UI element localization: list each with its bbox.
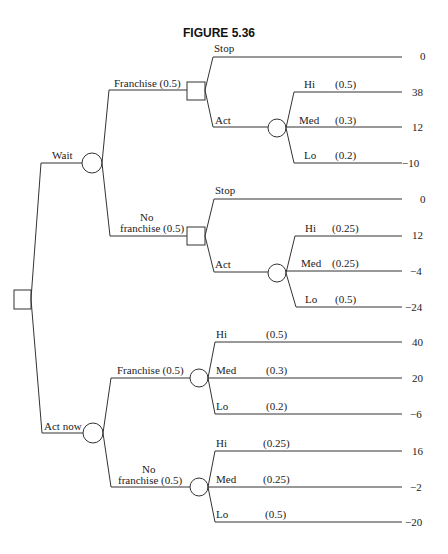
label-wait-franchise: Franchise (0.5)	[114, 77, 181, 90]
prob: (0.25)	[263, 437, 290, 450]
branch-wait	[31, 163, 41, 299]
payoff: −6	[410, 408, 422, 420]
payoff: 40	[412, 336, 424, 348]
payoff: 38	[412, 86, 424, 98]
payoff: −24	[405, 301, 423, 313]
payoff: −10	[402, 157, 420, 169]
wait-franchise-decision-node	[187, 82, 205, 100]
label-stop: Stop	[214, 42, 235, 54]
prob: (0.5)	[266, 328, 287, 341]
wait-franchise-chance-node	[268, 119, 286, 137]
prob: (0.2)	[266, 400, 287, 413]
label-med: Med	[216, 364, 237, 376]
label-med: Med	[216, 473, 237, 485]
prob: (0.2)	[335, 149, 356, 162]
payoff: 12	[412, 121, 423, 133]
payoff: 16	[412, 445, 424, 457]
wait-nofranchise-decision-node	[187, 227, 205, 245]
label-actnow-franchise: Franchise (0.5)	[117, 364, 184, 377]
prob: (0.25)	[263, 473, 290, 486]
label-act: Act	[215, 114, 231, 126]
label-stop: Stop	[215, 184, 236, 196]
actnow-chance-node	[83, 423, 103, 443]
label-hi: Hi	[305, 222, 316, 234]
prob: (0.5)	[335, 293, 356, 306]
payoff: −20	[405, 516, 423, 528]
prob: (0.25)	[332, 257, 359, 270]
prob: (0.5)	[335, 78, 356, 91]
actnow-nofranchise-chance-node	[190, 478, 208, 496]
payoff: 20	[412, 372, 424, 384]
prob: (0.5)	[265, 508, 286, 521]
wait-chance-node	[82, 153, 102, 173]
payoff: −4	[410, 265, 422, 277]
prob: (0.3)	[335, 114, 356, 127]
actnow-franchise-chance-node	[190, 369, 208, 387]
label-hi: Hi	[216, 437, 227, 449]
label-lo: Lo	[304, 149, 317, 161]
payoff: 0	[420, 193, 426, 205]
prob: (0.3)	[266, 364, 287, 377]
decision-tree: FIGURE 5.36 Wait Act now Franchise (0.5)…	[0, 0, 448, 554]
root-decision-node	[14, 290, 31, 309]
label-act-now: Act now	[44, 420, 82, 432]
branch-act-now	[31, 299, 42, 433]
wait-nofranchise-chance-node	[268, 264, 286, 282]
label-hi: Hi	[304, 78, 315, 90]
figure-title: FIGURE 5.36	[183, 26, 255, 40]
label-actnow-no-franchise: franchise (0.5)	[118, 474, 182, 487]
payoff: 12	[412, 229, 423, 241]
label-lo: Lo	[305, 293, 318, 305]
prob: (0.25)	[332, 222, 359, 235]
label-lo: Lo	[216, 400, 229, 412]
payoff: 0	[420, 50, 426, 62]
label-med: Med	[301, 257, 322, 269]
label-act: Act	[215, 258, 231, 270]
label-med: Med	[299, 114, 320, 126]
label-lo: Lo	[216, 508, 229, 520]
label-wait-no-franchise: franchise (0.5)	[120, 222, 184, 235]
payoff: −2	[410, 481, 422, 493]
label-hi: Hi	[216, 328, 227, 340]
label-wait: Wait	[52, 149, 73, 161]
